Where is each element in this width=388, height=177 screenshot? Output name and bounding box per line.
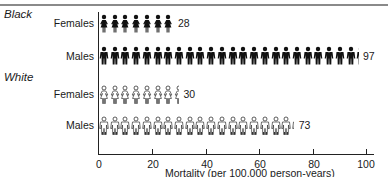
male-figure-icon [110, 116, 120, 136]
male-figure-icon [303, 46, 313, 66]
male-figure-icon [142, 116, 152, 136]
male-figure-icon [195, 46, 205, 66]
group-label-black: Black [4, 8, 32, 20]
male-figure-icon [163, 46, 173, 66]
male-figure-icon [131, 116, 141, 136]
male-figure-icon [313, 46, 323, 66]
female-figure-icon [142, 14, 152, 34]
male-figure-icon [206, 46, 216, 66]
female-figure-icon [142, 85, 152, 105]
row-label-white-males: Males [66, 119, 94, 131]
male-figure-icon [174, 46, 184, 66]
group-label-white: White [4, 71, 33, 83]
x-tick-80 [313, 149, 314, 154]
y-axis-line [98, 12, 99, 155]
male-figure-icon [174, 116, 184, 136]
female-figure-icon [99, 85, 109, 105]
male-figure-icon [324, 46, 334, 66]
x-tick-60 [259, 149, 260, 154]
male-figure-icon [346, 46, 356, 66]
value-label-black-females: 28 [178, 17, 190, 29]
male-figure-icon [195, 116, 205, 136]
value-label-black-males: 97 [363, 50, 375, 62]
male-figure-icon [131, 46, 141, 66]
female-figure-icon [174, 85, 179, 105]
female-figure-icon [131, 14, 141, 34]
male-figure-icon [249, 116, 259, 136]
male-figure-icon [206, 116, 216, 136]
male-figure-icon [142, 46, 152, 66]
male-figure-icon [238, 116, 248, 136]
male-figure-icon [281, 46, 291, 66]
female-figure-icon [110, 14, 120, 34]
male-figure-icon [217, 116, 227, 136]
value-label-white-females: 30 [183, 88, 195, 100]
male-figure-icon [228, 46, 238, 66]
female-figure-icon [120, 14, 130, 34]
female-figure-icon [99, 14, 109, 34]
male-figure-icon [120, 116, 130, 136]
female-figure-icon [153, 85, 163, 105]
male-figure-icon [228, 116, 238, 136]
male-figure-icon [110, 46, 120, 66]
male-figure-icon [238, 46, 248, 66]
value-label-white-males: 73 [299, 119, 311, 131]
x-tick-100 [366, 149, 367, 154]
female-figure-icon [120, 85, 130, 105]
male-figure-icon [99, 116, 109, 136]
x-tick-40 [206, 149, 207, 154]
male-figure-icon [99, 46, 109, 66]
male-figure-icon [292, 46, 302, 66]
male-figure-icon [271, 116, 281, 136]
male-figure-icon [153, 46, 163, 66]
female-figure-icon [163, 14, 173, 34]
male-figure-icon [249, 46, 259, 66]
male-figure-icon [260, 46, 270, 66]
x-axis-line [98, 154, 374, 155]
female-figure-icon [110, 85, 120, 105]
male-figure-icon [281, 116, 291, 136]
male-figure-icon [120, 46, 130, 66]
female-figure-icon [153, 14, 163, 34]
row-label-white-females: Females [54, 88, 94, 100]
male-figure-icon [260, 116, 270, 136]
male-figure-icon [163, 116, 173, 136]
male-figure-icon [356, 46, 359, 66]
x-tick-20 [152, 149, 153, 154]
x-axis-title: Mortality (per 100,000 person-years) [0, 167, 388, 177]
female-figure-icon [131, 85, 141, 105]
female-figure-icon [163, 85, 173, 105]
top-rule [0, 4, 388, 6]
male-figure-icon [185, 116, 195, 136]
male-figure-icon [153, 116, 163, 136]
male-figure-icon [335, 46, 345, 66]
male-figure-icon [217, 46, 227, 66]
male-figure-icon [271, 46, 281, 66]
x-tick-0 [98, 149, 99, 154]
row-label-black-females: Females [54, 17, 94, 29]
male-figure-icon [292, 116, 295, 136]
male-figure-icon [185, 46, 195, 66]
row-label-black-males: Males [66, 50, 94, 62]
